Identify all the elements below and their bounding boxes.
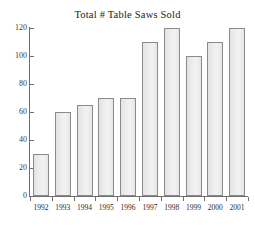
bar: [98, 98, 114, 196]
x-axis-tick: [117, 197, 118, 201]
x-axis-tick-label: 1997: [139, 203, 161, 212]
x-axis-tick: [248, 197, 249, 201]
x-axis-tick: [74, 197, 75, 201]
x-axis-tick-label: 1993: [52, 203, 74, 212]
x-axis-tick-label: 1995: [95, 203, 117, 212]
y-axis-tick-label-wrap: 120: [0, 24, 27, 32]
x-axis-tick: [95, 197, 96, 201]
x-axis-tick: [52, 197, 53, 201]
x-axis-tick-label: 1999: [183, 203, 205, 212]
y-axis-tick-label: 60: [3, 108, 27, 116]
y-axis-tick-label: 40: [3, 136, 27, 144]
y-axis-tick: [30, 112, 34, 113]
x-axis-tick-label: 2000: [204, 203, 226, 212]
x-axis-tick: [183, 197, 184, 201]
x-axis-tick-label: 2001: [226, 203, 248, 212]
y-axis-tick-label-wrap: 40: [0, 136, 27, 144]
x-axis-tick-label: 1998: [161, 203, 183, 212]
y-axis-tick-label-wrap: 60: [0, 108, 27, 116]
y-axis-tick-label-wrap: 0: [0, 192, 27, 200]
y-axis-tick: [30, 28, 34, 29]
y-axis-tick-label: 0: [3, 192, 27, 200]
bar: [55, 112, 71, 196]
y-axis-tick: [30, 140, 34, 141]
chart-title: Total # Table Saws Sold: [0, 9, 255, 20]
bar: [33, 154, 49, 196]
y-axis-tick: [30, 56, 34, 57]
bar: [120, 98, 136, 196]
x-axis-tick: [30, 197, 31, 201]
y-axis-tick-label-wrap: 80: [0, 80, 27, 88]
bar-chart-figure: Total # Table Saws Sold 020406080100120 …: [0, 0, 255, 227]
x-axis-tick: [161, 197, 162, 201]
bar: [229, 28, 245, 196]
bar: [77, 105, 93, 196]
x-axis-tick-label: 1992: [30, 203, 52, 212]
y-axis-tick-label: 20: [3, 164, 27, 172]
y-axis-tick-label-wrap: 100: [0, 52, 27, 60]
bar: [207, 42, 223, 196]
y-axis-tick-label-wrap: 20: [0, 164, 27, 172]
x-axis-tick: [204, 197, 205, 201]
y-axis-tick-label: 80: [3, 80, 27, 88]
bar: [164, 28, 180, 196]
y-axis-tick-label: 100: [3, 52, 27, 60]
y-axis-tick-label: 120: [3, 24, 27, 32]
bar: [186, 56, 202, 196]
y-axis-tick: [30, 84, 34, 85]
bar: [142, 42, 158, 196]
x-axis-tick: [139, 197, 140, 201]
x-axis-tick-label: 1994: [74, 203, 96, 212]
x-axis-tick: [226, 197, 227, 201]
x-axis-tick-label: 1996: [117, 203, 139, 212]
